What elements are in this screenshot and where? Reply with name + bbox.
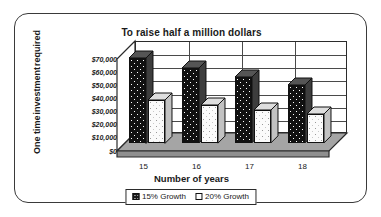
legend-swatch-dark-icon <box>132 193 139 200</box>
plot-area: $0$10,000$20,000$30,000$40,000$50,000$60… <box>70 41 355 161</box>
y-axis-title: One time investment required <box>15 44 59 140</box>
x-axis-tick-label: 18 <box>289 162 317 172</box>
y-axis-title-line-1: One time <box>32 116 42 155</box>
y-axis-tick-labels: $0$10,000$20,000$30,000$40,000$50,000$60… <box>70 41 117 161</box>
legend-item-series-1[interactable]: 15% Growth <box>132 192 186 201</box>
bar-3d-shading <box>254 103 280 145</box>
chart-3d-body <box>117 41 355 161</box>
legend-label-series-2: 20% Growth <box>205 192 249 201</box>
legend-swatch-light-icon <box>195 193 202 200</box>
y-axis-title-line-2: investment <box>32 67 42 115</box>
legend-label-series-1: 15% Growth <box>142 192 186 201</box>
chart-frame: To raise half a million dollars One time… <box>14 13 367 203</box>
bar-20-growth-17[interactable] <box>254 110 271 143</box>
bar-3d-shading <box>307 107 333 145</box>
y-axis-tick-label: $0 <box>70 148 117 155</box>
x-axis-title: Number of years <box>15 173 368 184</box>
bar-3d-shading <box>201 98 227 145</box>
bar-15-growth-15[interactable] <box>129 58 146 143</box>
bars-layer <box>117 41 355 161</box>
y-axis-tick-label: $70,000 <box>70 56 117 63</box>
bar-side-face <box>164 93 171 143</box>
x-axis-tick-label: 17 <box>236 162 264 172</box>
y-axis-tick-label: $50,000 <box>70 82 117 89</box>
x-axis-tick-label: 16 <box>183 162 211 172</box>
bar-3d-shading <box>148 93 174 145</box>
bar-15-growth-17[interactable] <box>235 77 252 143</box>
y-axis-tick-label: $60,000 <box>70 69 117 76</box>
bar-15-growth-18[interactable] <box>288 85 305 143</box>
y-axis-tick-label: $10,000 <box>70 134 117 141</box>
y-axis-title-line-3: required <box>32 30 42 66</box>
chart-title: To raise half a million dollars <box>15 27 368 38</box>
bar-15-growth-16[interactable] <box>182 68 199 143</box>
chart-legend: 15% Growth 20% Growth <box>125 189 256 205</box>
bar-side-face <box>217 98 224 143</box>
legend-item-series-2[interactable]: 20% Growth <box>195 192 249 201</box>
y-axis-tick-label: $20,000 <box>70 121 117 128</box>
y-axis-tick-label: $40,000 <box>70 95 117 102</box>
bar-20-growth-15[interactable] <box>148 100 165 143</box>
bar-20-growth-16[interactable] <box>201 105 218 143</box>
y-axis-tick-label: $30,000 <box>70 108 117 115</box>
x-axis-tick-label: 15 <box>130 162 158 172</box>
bar-20-growth-18[interactable] <box>307 114 324 143</box>
